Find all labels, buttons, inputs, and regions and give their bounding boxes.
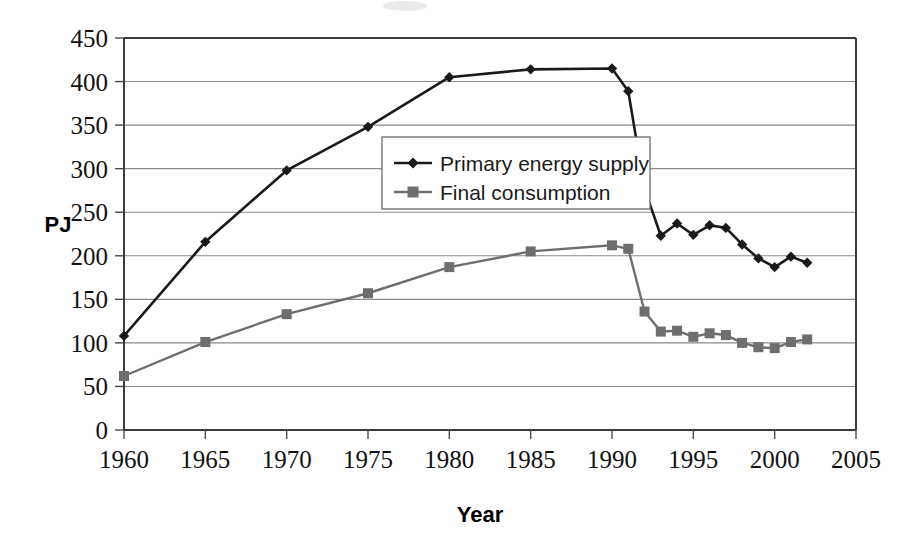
x-tick-label-2005: 2005	[831, 446, 881, 473]
axis-tick-marks	[115, 38, 856, 439]
series-line-final-consumption	[124, 245, 807, 376]
x-tick-label-1975: 1975	[343, 446, 393, 473]
square-marker-icon	[444, 262, 454, 272]
square-marker-icon	[721, 330, 731, 340]
square-marker-icon	[737, 338, 747, 348]
scan-artifact	[383, 1, 427, 11]
x-tick-label-2000: 2000	[750, 446, 800, 473]
square-marker-icon	[607, 240, 617, 250]
series-final-consumption	[119, 240, 812, 381]
energy-chart: 050100150200250300350400450 196019651970…	[0, 0, 903, 533]
square-marker-icon	[753, 342, 763, 352]
diamond-marker-icon	[525, 64, 535, 74]
legend-label-secondary: Final consumption	[440, 181, 610, 204]
y-axis-tick-labels: 050100150200250300350400450	[71, 25, 109, 444]
y-tick-label-400: 400	[71, 69, 109, 96]
square-marker-icon	[688, 332, 698, 342]
square-marker-icon	[363, 288, 373, 298]
chart-canvas: 050100150200250300350400450 196019651970…	[0, 0, 903, 533]
square-marker-icon	[672, 326, 682, 336]
x-tick-label-1970: 1970	[262, 446, 312, 473]
y-tick-label-250: 250	[71, 199, 109, 226]
data-series-layer	[119, 63, 813, 381]
y-tick-label-100: 100	[71, 330, 109, 357]
x-tick-label-1995: 1995	[668, 446, 718, 473]
x-tick-label-1985: 1985	[506, 446, 556, 473]
x-axis-tick-labels: 1960196519701975198019851990199520002005	[99, 446, 881, 473]
square-marker-icon	[623, 244, 633, 254]
plot-frame	[124, 38, 856, 430]
y-axis-title: PJ	[45, 212, 72, 237]
gridlines	[124, 38, 856, 430]
square-marker-icon	[640, 307, 650, 317]
y-tick-label-200: 200	[71, 243, 109, 270]
square-marker-icon	[408, 187, 419, 198]
y-tick-label-450: 450	[71, 25, 109, 52]
x-tick-label-1960: 1960	[99, 446, 149, 473]
y-tick-label-50: 50	[83, 373, 108, 400]
square-marker-icon	[802, 334, 812, 344]
square-marker-icon	[786, 337, 796, 347]
square-marker-icon	[282, 309, 292, 319]
square-marker-icon	[119, 371, 129, 381]
square-marker-icon	[656, 327, 666, 337]
y-tick-label-300: 300	[71, 156, 109, 183]
x-tick-label-1990: 1990	[587, 446, 637, 473]
x-tick-label-1980: 1980	[424, 446, 474, 473]
square-marker-icon	[705, 328, 715, 338]
square-marker-icon	[526, 246, 536, 256]
y-tick-label-150: 150	[71, 286, 109, 313]
y-tick-label-350: 350	[71, 112, 109, 139]
square-marker-icon	[770, 343, 780, 353]
diamond-marker-icon	[802, 258, 812, 268]
y-tick-label-0: 0	[96, 417, 109, 444]
chart-legend: Primary energy supply Final consumption	[382, 137, 650, 209]
x-tick-label-1965: 1965	[180, 446, 230, 473]
square-marker-icon	[200, 337, 210, 347]
x-axis-title: Year	[457, 502, 504, 527]
legend-label-primary: Primary energy supply	[440, 152, 649, 175]
